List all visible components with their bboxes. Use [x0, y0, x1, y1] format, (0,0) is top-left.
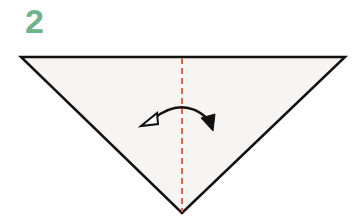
fold-diagram: [0, 0, 355, 221]
